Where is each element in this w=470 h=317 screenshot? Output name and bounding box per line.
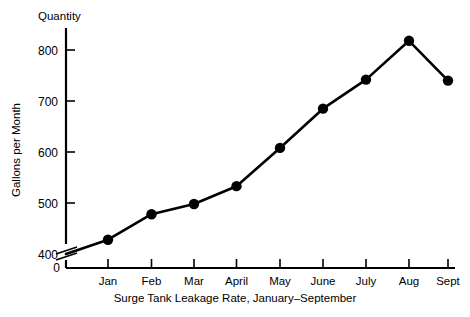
y-tick-label: 600 — [38, 146, 58, 160]
data-point — [318, 103, 328, 113]
x-tick-label: Jan — [99, 275, 118, 287]
x-tick-label: Mar — [184, 275, 204, 287]
data-point — [231, 181, 241, 191]
y-tick-label: 700 — [38, 95, 58, 109]
x-tick-label: May — [269, 275, 291, 287]
line-chart: Quantity Gallons per Month 4005006007008… — [0, 0, 470, 317]
y-axis-zero-label: 0 — [53, 261, 60, 275]
data-point — [443, 75, 453, 85]
data-point — [146, 209, 156, 219]
y-tick-label: 500 — [38, 197, 58, 211]
x-tick-label: June — [311, 275, 336, 287]
x-axis-ticks: JanFebMarAprilMayJuneJulyAugSept — [99, 259, 461, 287]
y-axis-title: Gallons per Month — [10, 103, 22, 197]
data-point-markers — [103, 36, 453, 245]
x-tick-label: Aug — [399, 275, 419, 287]
x-tick-label: Feb — [142, 275, 162, 287]
data-point — [189, 199, 199, 209]
x-tick-label: Sept — [436, 275, 460, 287]
x-tick-label: July — [356, 275, 377, 287]
data-point — [103, 235, 113, 245]
chart-container: Quantity Gallons per Month 4005006007008… — [0, 0, 470, 317]
data-point — [361, 74, 371, 84]
data-series-line — [66, 41, 448, 254]
y-tick-label: 800 — [38, 44, 58, 58]
data-point — [275, 143, 285, 153]
y-axis-ticks: 400500600700800 — [38, 44, 75, 262]
x-tick-label: April — [225, 275, 248, 287]
chart-caption: Surge Tank Leakage Rate, January–Septemb… — [114, 292, 357, 304]
quantity-axis-label: Quantity — [38, 10, 81, 22]
y-tick-label: 400 — [38, 248, 58, 262]
data-point — [404, 36, 414, 46]
